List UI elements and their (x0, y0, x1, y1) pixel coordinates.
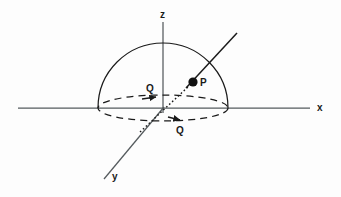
point-p-label: P (200, 78, 207, 88)
q-lower-arrow (168, 117, 180, 120)
point-q-upper-label: Q (146, 84, 154, 94)
y-axis-label: y (112, 172, 118, 182)
q-upper-arrow (142, 97, 156, 99)
z-axis-label: z (160, 10, 165, 20)
diagram-svg (0, 0, 341, 197)
point-q-lower-label: Q (176, 126, 184, 136)
point-p-marker (188, 77, 197, 86)
diagram-canvas: x y z P Q Q (0, 0, 341, 197)
x-axis-label: x (317, 103, 323, 113)
